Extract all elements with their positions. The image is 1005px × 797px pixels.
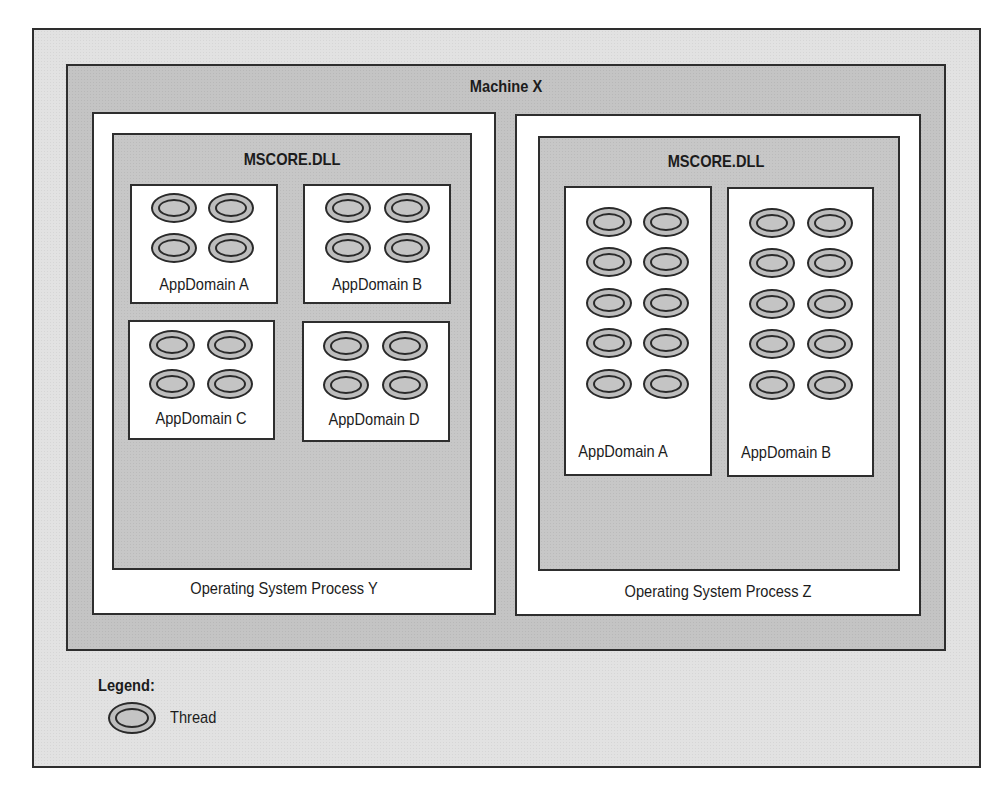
thread-icon bbox=[325, 193, 371, 223]
process-z-label: Operating System Process Z bbox=[606, 582, 830, 602]
runtime-z-label: MSCORE.DLL bbox=[656, 152, 776, 172]
machine-label: Machine X bbox=[463, 77, 549, 97]
thread-icon bbox=[749, 208, 795, 238]
thread-icon bbox=[207, 369, 253, 399]
appdomain-z-b bbox=[727, 187, 874, 477]
thread-ellipse-icon bbox=[108, 702, 156, 734]
thread-icon bbox=[151, 193, 197, 223]
thread-icon bbox=[382, 370, 428, 400]
thread-icon bbox=[749, 289, 795, 319]
appdomain-y-b-label: AppDomain B bbox=[317, 275, 437, 295]
thread-icon bbox=[586, 369, 632, 399]
thread-icon bbox=[749, 248, 795, 278]
thread-icon bbox=[149, 330, 195, 360]
appdomain-y-a-label: AppDomain A bbox=[144, 275, 264, 295]
thread-icon bbox=[807, 208, 853, 238]
thread-icon bbox=[749, 329, 795, 359]
appdomain-z-a bbox=[564, 186, 712, 476]
appdomain-y-d-label: AppDomain D bbox=[312, 410, 436, 430]
thread-icon bbox=[643, 207, 689, 237]
thread-icon bbox=[208, 193, 254, 223]
thread-icon bbox=[384, 233, 430, 263]
thread-icon bbox=[586, 288, 632, 318]
thread-icon bbox=[325, 233, 371, 263]
appdomain-z-b-label: AppDomain B bbox=[734, 443, 837, 463]
thread-icon bbox=[643, 247, 689, 277]
legend-title: Legend: bbox=[98, 676, 155, 696]
thread-icon bbox=[643, 288, 689, 318]
thread-icon bbox=[586, 207, 632, 237]
thread-icon bbox=[149, 369, 195, 399]
thread-icon bbox=[208, 233, 254, 263]
thread-icon bbox=[807, 329, 853, 359]
thread-icon bbox=[807, 248, 853, 278]
legend-thread-label: Thread bbox=[170, 708, 216, 728]
runtime-y-label: MSCORE.DLL bbox=[232, 150, 352, 170]
thread-icon bbox=[586, 247, 632, 277]
thread-icon bbox=[807, 289, 853, 319]
thread-icon bbox=[384, 193, 430, 223]
thread-icon bbox=[151, 233, 197, 263]
thread-icon bbox=[323, 370, 369, 400]
thread-icon bbox=[643, 369, 689, 399]
thread-icon bbox=[807, 370, 853, 400]
thread-icon bbox=[323, 331, 369, 361]
appdomain-y-c-label: AppDomain C bbox=[141, 409, 261, 429]
thread-icon bbox=[207, 330, 253, 360]
thread-icon bbox=[382, 331, 428, 361]
thread-icon bbox=[586, 328, 632, 358]
appdomain-z-a-label: AppDomain A bbox=[571, 442, 674, 462]
process-y-label: Operating System Process Y bbox=[181, 579, 387, 599]
thread-icon bbox=[749, 370, 795, 400]
thread-icon bbox=[643, 328, 689, 358]
